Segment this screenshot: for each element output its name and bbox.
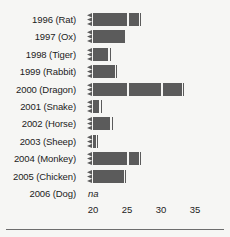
bar-end-separator <box>115 65 117 78</box>
axis-break-icon <box>85 48 92 61</box>
bar-chart-figure: 1996 (Rat)1997 (Ox)1998 (Tiger)1999 (Rab… <box>0 0 230 237</box>
bar-end-separator <box>96 135 98 148</box>
bar-row: 2003 (Sheep) <box>0 133 230 150</box>
bar-row: 2002 (Horse) <box>0 115 230 132</box>
category-label: 2001 (Snake) <box>0 98 76 115</box>
axis-break-icon <box>85 83 92 96</box>
category-label: 2000 (Dragon) <box>0 81 76 98</box>
x-tick-label: 35 <box>183 203 207 217</box>
bar-row: 2000 (Dragon) <box>0 81 230 98</box>
category-label: 2006 (Dog) <box>0 185 76 202</box>
bar-end-separator <box>182 83 184 96</box>
bar-row: 2006 (Dog)na <box>0 185 230 202</box>
bar-row: 1996 (Rat) <box>0 11 230 28</box>
bar-row: 1999 (Rabbit) <box>0 63 230 80</box>
bar-row: 2004 (Monkey) <box>0 150 230 167</box>
x-tick-label: 20 <box>81 203 105 217</box>
axis-break-icon <box>85 65 92 78</box>
bar-segment-separator <box>127 152 129 165</box>
bar-segment-separator <box>127 83 129 96</box>
bar-track <box>93 65 117 78</box>
bar-track <box>93 100 102 113</box>
category-label: 1997 (Ox) <box>0 28 76 45</box>
category-label: 1999 (Rabbit) <box>0 63 76 80</box>
bar-track <box>93 48 111 61</box>
category-label: 2004 (Monkey) <box>0 150 76 167</box>
axis-break-icon <box>85 13 92 26</box>
bar <box>93 152 141 165</box>
bar-track <box>93 30 128 43</box>
axis-break-icon <box>85 117 92 130</box>
bar-end-separator <box>125 30 127 43</box>
bar <box>93 30 128 43</box>
bar-end-separator <box>124 170 126 183</box>
axis-break-icon <box>85 100 92 113</box>
bar-segment-separator <box>127 30 129 43</box>
bar-row: 1998 (Tiger) <box>0 46 230 63</box>
bar-row: 2001 (Snake) <box>0 98 230 115</box>
bar-end-separator <box>110 117 112 130</box>
bar-segment-separator <box>161 83 163 96</box>
plot-area: 1996 (Rat)1997 (Ox)1998 (Tiger)1999 (Rab… <box>0 0 230 205</box>
bar-track <box>93 152 141 165</box>
category-label: 2003 (Sheep) <box>0 133 76 150</box>
x-tick-label: 30 <box>149 203 173 217</box>
bar <box>93 83 184 96</box>
bar-row: 1997 (Ox) <box>0 28 230 45</box>
x-tick-label: 25 <box>115 203 139 217</box>
axis-break-icon <box>85 170 92 183</box>
category-label: 2002 (Horse) <box>0 115 76 132</box>
x-axis: 20253035 <box>0 203 230 221</box>
bottom-rule-divider <box>6 229 224 230</box>
category-label: 1996 (Rat) <box>0 11 76 28</box>
bar-track <box>93 83 184 96</box>
bar-track <box>93 170 126 183</box>
category-label: 1998 (Tiger) <box>0 46 76 63</box>
bar-track <box>93 117 113 130</box>
category-label: 2005 (Chicken) <box>0 168 76 185</box>
bar-end-separator <box>139 13 141 26</box>
bar <box>93 65 117 78</box>
bar-segment-separator <box>127 13 129 26</box>
axis-break-icon <box>85 135 92 148</box>
bar-track <box>93 13 141 26</box>
missing-value-label: na <box>88 185 99 202</box>
bar-row: 2005 (Chicken) <box>0 168 230 185</box>
axis-break-icon <box>85 30 92 43</box>
bar <box>93 13 141 26</box>
bar-end-separator <box>99 100 101 113</box>
bar <box>93 170 126 183</box>
bar-end-separator <box>108 48 110 61</box>
bar-track <box>93 135 98 148</box>
bar-end-separator <box>139 152 141 165</box>
axis-break-icon <box>85 152 92 165</box>
